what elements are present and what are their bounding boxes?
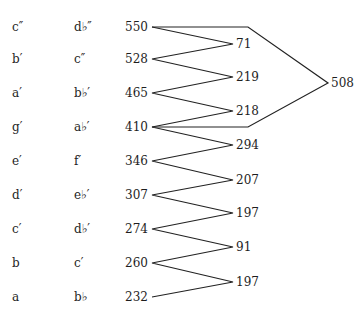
value-label: 465 (108, 86, 148, 100)
enharmonic-label: b♭′ (74, 86, 90, 100)
outer-difference-label: 508 (331, 76, 354, 90)
enharmonic-label: d♭′ (74, 222, 90, 236)
note-label: b (12, 256, 20, 270)
value-label: 260 (108, 256, 148, 270)
difference-label: 294 (236, 138, 259, 152)
difference-label: 218 (236, 104, 259, 118)
enharmonic-label: d♭″ (74, 20, 92, 34)
difference-label: 197 (236, 275, 259, 289)
note-label: g′ (12, 120, 22, 134)
note-label: a′ (12, 86, 22, 100)
value-label: 274 (108, 222, 148, 236)
difference-label: 207 (236, 173, 259, 187)
difference-label: 219 (236, 70, 259, 84)
enharmonic-label: e♭′ (74, 188, 90, 202)
difference-label: 197 (236, 206, 259, 220)
note-label: a (12, 290, 19, 304)
note-label: c″ (12, 20, 23, 34)
enharmonic-label: c″ (74, 52, 85, 66)
note-label: b′ (12, 52, 22, 66)
enharmonic-label: c′ (74, 256, 83, 270)
zigzag-connector-lines (0, 0, 360, 315)
value-label: 528 (108, 52, 148, 66)
enharmonic-label: f′ (74, 154, 81, 168)
value-label: 307 (108, 188, 148, 202)
value-label: 232 (108, 290, 148, 304)
value-label: 550 (108, 20, 148, 34)
note-label: c′ (12, 222, 21, 236)
value-label: 410 (108, 120, 148, 134)
difference-label: 71 (236, 37, 251, 51)
note-label: d′ (12, 188, 22, 202)
difference-label: 91 (236, 240, 251, 254)
enharmonic-label: b♭ (74, 290, 87, 304)
enharmonic-label: a♭′ (74, 120, 90, 134)
value-label: 346 (108, 154, 148, 168)
note-label: e′ (12, 154, 22, 168)
